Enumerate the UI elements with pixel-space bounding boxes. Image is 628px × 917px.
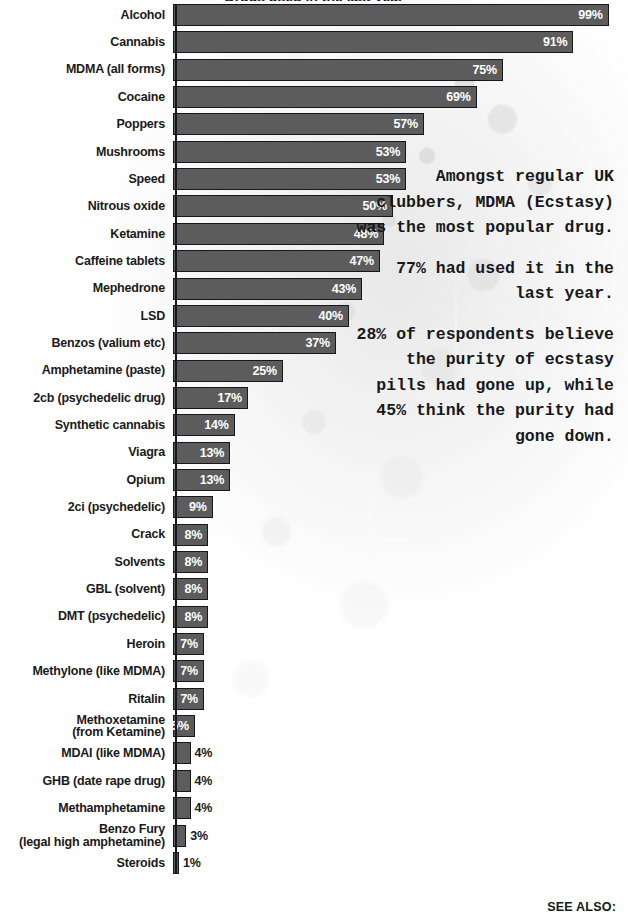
bar-value-label: 53% — [376, 146, 405, 158]
bar: 37% — [173, 332, 336, 354]
bar: 75% — [173, 59, 503, 81]
chart-row: Methylone (like MDMA)7% — [0, 660, 628, 682]
category-label: Viagra — [0, 446, 173, 459]
chart-row: DMT (psychedelic)8% — [0, 606, 628, 628]
category-label: Mushrooms — [0, 146, 173, 159]
bar: 8% — [173, 551, 208, 573]
category-label: Solvents — [0, 556, 173, 569]
bar-track: 91% — [173, 31, 628, 53]
category-label: Methoxetamine (from Ketamine) — [0, 714, 173, 739]
chart-row: Solvents8% — [0, 551, 628, 573]
category-label: Alcohol — [0, 9, 173, 22]
category-label: DMT (psychedelic) — [0, 610, 173, 623]
bar: 13% — [173, 442, 230, 464]
chart-row: Steroids1% — [0, 852, 628, 874]
bar-track: 8% — [173, 606, 628, 628]
bar-track: 8% — [173, 551, 628, 573]
bar-track: 7% — [173, 633, 628, 655]
category-label: Benzo Fury (legal high amphetamine) — [0, 823, 173, 848]
bar-value-label: 7% — [180, 693, 203, 705]
bar-value-label: 8% — [185, 529, 208, 541]
bar: 9% — [173, 496, 213, 518]
bar-track: 75% — [173, 59, 628, 81]
bar-track: 7% — [173, 688, 628, 710]
bar-track: 57% — [173, 113, 628, 135]
category-label: Ketamine — [0, 228, 173, 241]
bar-track: 8% — [173, 578, 628, 600]
chart-row: Benzo Fury (legal high amphetamine)3% — [0, 825, 628, 847]
bar-track: 53% — [173, 141, 628, 163]
chart-row: MDAI (like MDMA)4% — [0, 742, 628, 764]
category-label: Caffeine tablets — [0, 255, 173, 268]
bar-value-label: 14% — [204, 419, 233, 431]
callout-paragraph: 28% of respondents believe the purity of… — [348, 322, 614, 450]
bar-value-label: 40% — [319, 310, 348, 322]
bar-track: 3% — [173, 825, 628, 847]
bar-value-label: 4% — [191, 775, 213, 787]
bar: 8% — [173, 578, 208, 600]
bar: 14% — [173, 414, 235, 436]
category-label: Speed — [0, 173, 173, 186]
bar-track: 4% — [173, 797, 628, 819]
horizontal-bar-chart: Alcohol99%Cannabis91%MDMA (all forms)75%… — [0, 0, 628, 917]
category-label: Cannabis — [0, 36, 173, 49]
category-label: Steroids — [0, 857, 173, 870]
category-label: Poppers — [0, 118, 173, 131]
see-also-label: SEE ALSO: — [547, 900, 616, 914]
category-label: Opium — [0, 474, 173, 487]
bar-track: 1% — [173, 852, 628, 874]
chart-row: GBL (solvent)8% — [0, 578, 628, 600]
category-label: 2cb (psychedelic drug) — [0, 392, 173, 405]
chart-row: Alcohol99% — [0, 4, 628, 26]
bar-track: 4% — [173, 770, 628, 792]
category-label: Cocaine — [0, 91, 173, 104]
bar-value-label: 91% — [543, 36, 572, 48]
bar-track: 69% — [173, 86, 628, 108]
callout-text-block: Amongst regular UK clubbers, MDMA (Ecsta… — [348, 164, 614, 449]
bar: 8% — [173, 524, 208, 546]
bar: 57% — [173, 113, 424, 135]
chart-row: 2ci (psychedelic)9% — [0, 496, 628, 518]
bar: 7% — [173, 688, 204, 710]
bar-value-label: 8% — [185, 583, 208, 595]
bar-track: 99% — [173, 4, 628, 26]
category-label: 2ci (psychedelic) — [0, 501, 173, 514]
bar-value-label: 8% — [185, 611, 208, 623]
chart-row: Mushrooms53% — [0, 141, 628, 163]
chart-row: MDMA (all forms)75% — [0, 59, 628, 81]
bar-value-label: 7% — [180, 665, 203, 677]
bar-value-label: 13% — [200, 474, 229, 486]
category-label: Methylone (like MDMA) — [0, 665, 173, 678]
category-label: Crack — [0, 528, 173, 541]
bar-value-label: 13% — [200, 447, 229, 459]
category-label: GHB (date rape drug) — [0, 775, 173, 788]
bar-track: 13% — [173, 469, 628, 491]
category-label: Ritalin — [0, 693, 173, 706]
callout-paragraph: Amongst regular UK clubbers, MDMA (Ecsta… — [348, 164, 614, 241]
bar-value-label: 9% — [189, 501, 212, 513]
chart-row: GHB (date rape drug)4% — [0, 770, 628, 792]
category-label: Synthetic cannabis — [0, 419, 173, 432]
bar: 8% — [173, 606, 208, 628]
bar-value-label: 25% — [253, 365, 282, 377]
bar: 13% — [173, 469, 230, 491]
category-label: Nitrous oxide — [0, 200, 173, 213]
chart-row: Methamphetamine4% — [0, 797, 628, 819]
bar-value-label: 8% — [185, 556, 208, 568]
bar-value-label: 99% — [578, 9, 607, 21]
category-label: Heroin — [0, 638, 173, 651]
chart-row: Cocaine69% — [0, 86, 628, 108]
category-label: Benzos (valium etc) — [0, 337, 173, 350]
category-label: GBL (solvent) — [0, 583, 173, 596]
category-label: Amphetamine (paste) — [0, 364, 173, 377]
bar: 25% — [173, 360, 283, 382]
bar-track: 8% — [173, 524, 628, 546]
chart-row: Crack8% — [0, 524, 628, 546]
chart-title-cropped: Drugs used in the last year — [0, 0, 628, 1]
bar-value-label: 75% — [473, 64, 502, 76]
bar-track: 7% — [173, 660, 628, 682]
category-label: Mephedrone — [0, 282, 173, 295]
bar-value-label: 4% — [191, 747, 213, 759]
chart-row: Methoxetamine (from Ketamine)5% — [0, 715, 628, 737]
bar-value-label: 1% — [179, 857, 201, 869]
